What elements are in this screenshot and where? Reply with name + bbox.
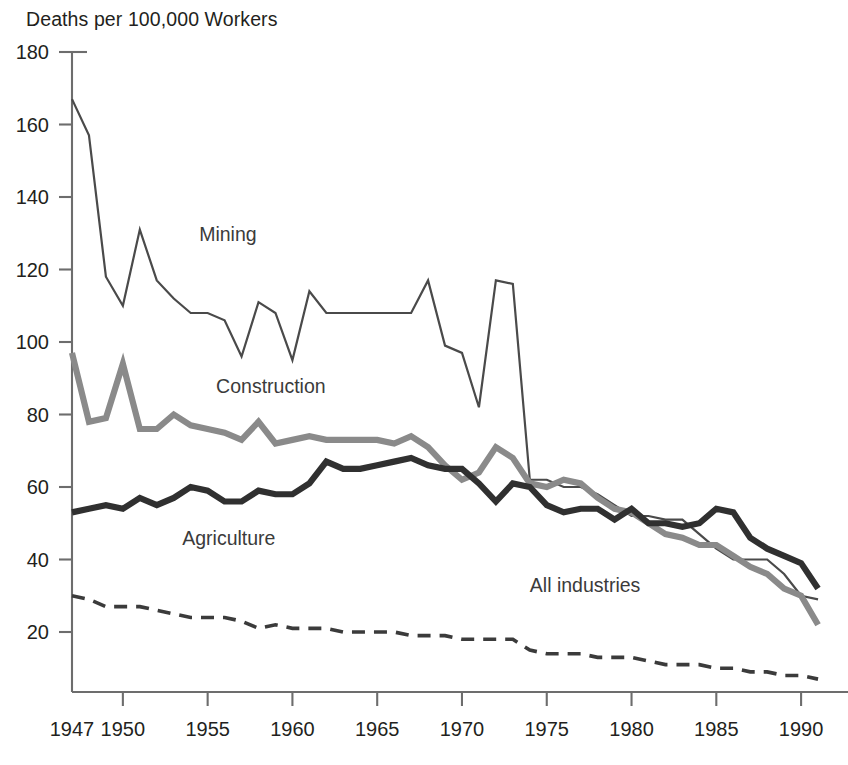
x-axis-tick-marks	[123, 692, 801, 706]
x-tick-label-1955: 1955	[185, 718, 230, 740]
series-line-all-industries	[72, 596, 818, 679]
y-tick-label-120: 120	[16, 259, 49, 281]
line-chart: 18016014012010080604020 1947195019551960…	[0, 0, 848, 765]
series-label-construction: Construction	[216, 375, 325, 397]
x-tick-label-1947: 1947	[50, 718, 95, 740]
y-tick-label-60: 60	[27, 476, 49, 498]
data-series-group	[72, 99, 818, 679]
x-tick-label-1970: 1970	[440, 718, 485, 740]
series-line-agriculture	[72, 458, 818, 589]
series-annotations: MiningConstructionAgricultureAll industr…	[182, 223, 640, 597]
y-tick-label-160: 160	[16, 114, 49, 136]
x-axis-tick-labels: 1947195019551960196519701975198019851990	[50, 718, 824, 740]
series-label-agriculture: Agriculture	[182, 527, 275, 549]
y-tick-label-20: 20	[27, 621, 49, 643]
x-tick-label-1990: 1990	[779, 718, 824, 740]
x-tick-label-1985: 1985	[694, 718, 739, 740]
x-tick-label-1950: 1950	[101, 718, 146, 740]
series-label-all-industries: All industries	[530, 574, 641, 596]
y-tick-label-40: 40	[27, 549, 49, 571]
x-tick-label-1960: 1960	[270, 718, 315, 740]
series-line-mining	[72, 99, 818, 599]
chart-page: Deaths per 100,000 Workers 1801601401201…	[0, 0, 848, 765]
x-tick-label-1980: 1980	[609, 718, 654, 740]
y-tick-label-80: 80	[27, 404, 49, 426]
series-label-mining: Mining	[199, 223, 256, 245]
x-tick-label-1965: 1965	[355, 718, 400, 740]
y-tick-label-100: 100	[16, 331, 49, 353]
y-tick-label-140: 140	[16, 186, 49, 208]
y-axis-tick-labels: 18016014012010080604020	[16, 41, 49, 643]
x-tick-label-1975: 1975	[525, 718, 570, 740]
y-tick-label-180: 180	[16, 41, 49, 63]
